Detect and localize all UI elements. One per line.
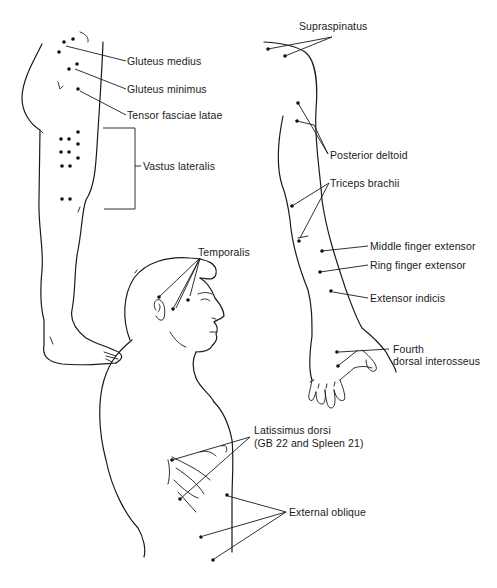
head-figure (125, 258, 224, 402)
leg-figure (22, 32, 141, 365)
label-middle-finger-extensor: Middle finger extensor (370, 240, 476, 252)
torso-figure (100, 340, 286, 562)
label-temporalis: Temporalis (198, 246, 250, 258)
label-latissimus-dorsi-line1: Latissimus dorsi (254, 424, 331, 436)
label-gluteus-medius: Gluteus medius (127, 55, 201, 67)
label-tensor-fasciae-latae: Tensor fasciae latae (127, 109, 222, 121)
label-fourth-dorsal-interosseus-line1: Fourth (393, 343, 424, 355)
label-fourth-dorsal-interosseus-line2: dorsal interosseus (393, 355, 480, 367)
label-latissimus-dorsi-line2: (GB 22 and Spleen 21) (254, 437, 364, 449)
label-extensor-indicis: Extensor indicis (370, 292, 445, 304)
label-posterior-deltoid: Posterior deltoid (330, 149, 408, 161)
label-ring-finger-extensor: Ring finger extensor (370, 259, 466, 271)
label-external-oblique: External oblique (289, 506, 366, 518)
label-supraspinatus: Supraspinatus (299, 20, 367, 32)
label-vastus-lateralis: Vastus lateralis (143, 160, 215, 172)
arm-figure (264, 37, 396, 408)
label-gluteus-minimus: Gluteus minimus (127, 83, 207, 95)
label-triceps-brachii: Triceps brachii (330, 177, 399, 189)
